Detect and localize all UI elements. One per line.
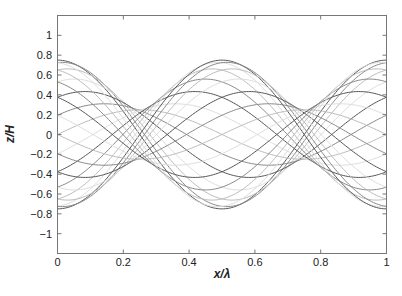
chart: 00.20.40.60.81 10.80.60.40.20−0.2−0.4−0.… [0, 0, 402, 296]
y-tick-label: 1 [46, 29, 52, 41]
x-tick-label: 0.6 [247, 256, 262, 268]
x-tick-label: 1 [383, 256, 389, 268]
y-tick-label: 0 [46, 129, 52, 141]
y-tick-label: 0.4 [37, 89, 52, 101]
y-tick-label: −1 [39, 228, 52, 240]
y-tick-label: 0.2 [37, 109, 52, 121]
y-tick-label: 0.6 [37, 69, 52, 81]
x-axis-label: x/λ [213, 267, 231, 281]
y-tick-label: −0.8 [30, 208, 52, 220]
x-tick-label: 0.8 [313, 256, 328, 268]
x-tick-label: 0.2 [116, 256, 131, 268]
x-tick-label: 0.4 [181, 256, 196, 268]
y-axis-label: z/H [3, 125, 17, 144]
x-tick-label: 0 [54, 256, 60, 268]
chart-background [0, 0, 402, 296]
y-tick-label: −0.2 [30, 148, 52, 160]
y-tick-label: −0.6 [30, 188, 52, 200]
y-tick-label: 0.8 [37, 49, 52, 61]
y-tick-label: −0.4 [30, 168, 52, 180]
